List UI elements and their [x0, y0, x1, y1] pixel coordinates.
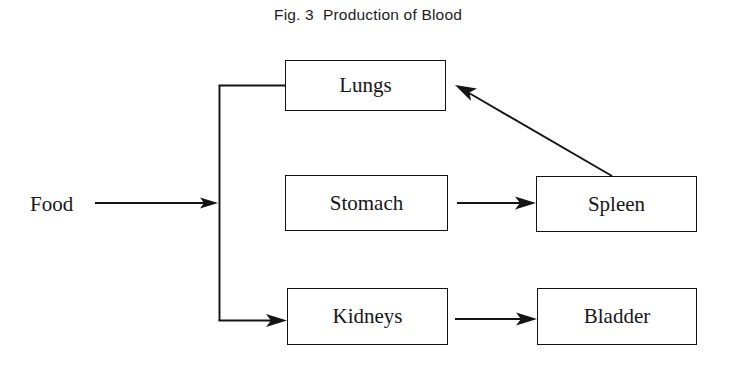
edge-kidneys-to-bladder [455, 313, 537, 326]
edge-stomach-to-spleen [457, 197, 536, 210]
node-stomach: Stomach [285, 175, 448, 231]
arrowhead-icon [515, 197, 536, 210]
edge-spleen-to-lungs [455, 85, 612, 176]
node-kidneys: Kidneys [287, 288, 448, 345]
node-label-food: Food [30, 192, 73, 217]
arrowhead-icon [266, 314, 287, 327]
node-label-bladder: Bladder [584, 306, 650, 327]
node-label-lungs: Lungs [339, 75, 392, 96]
node-label-stomach: Stomach [330, 193, 404, 214]
node-spleen: Spleen [536, 176, 697, 232]
arrowhead-icon [455, 85, 477, 101]
figure-title: Fig. 3 Production of Blood [0, 6, 736, 24]
node-label-spleen: Spleen [588, 194, 645, 215]
edge-junction-to-kidneys [219, 314, 288, 327]
node-bladder: Bladder [537, 288, 697, 345]
figure-container: Fig. 3 Production of Blood [0, 0, 736, 373]
arrowhead-icon [516, 313, 537, 326]
node-lungs: Lungs [285, 60, 446, 111]
arrowhead-icon [200, 198, 218, 209]
node-label-kidneys: Kidneys [333, 306, 403, 327]
edge-food-to-junction [95, 198, 218, 209]
